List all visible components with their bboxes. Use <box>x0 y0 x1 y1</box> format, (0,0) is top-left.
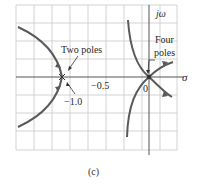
figure-caption: (c) <box>88 166 99 177</box>
arrow-left-upper <box>55 62 61 68</box>
four-poles-label-line2: poles <box>154 47 175 58</box>
pointer-arrow-minus-one <box>66 82 70 86</box>
imag-axis-label: jω <box>156 8 166 19</box>
two-poles-label: Two poles <box>61 44 102 55</box>
quad-pole-marker <box>147 75 151 79</box>
four-poles-label-line1: Four <box>155 34 174 45</box>
minus-half-tick-label: −0.5 <box>91 80 109 91</box>
arrow-left-lower <box>55 86 61 92</box>
minus-one-tick-label: −1.0 <box>64 96 82 107</box>
real-axis-label: σ <box>182 72 187 83</box>
root-locus-plot <box>0 0 198 190</box>
zero-tick-label: 0 <box>143 83 148 94</box>
